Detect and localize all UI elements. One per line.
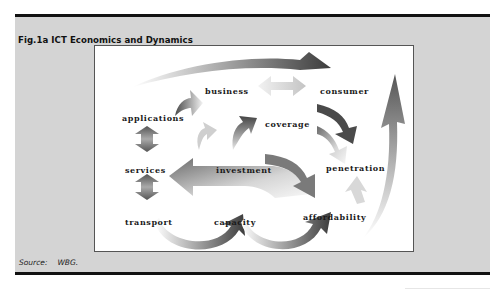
node-consumer: consumer — [320, 86, 369, 96]
node-services: services — [125, 165, 166, 175]
source-label: Source: — [19, 258, 47, 267]
services-transport-double-arrow — [135, 174, 159, 200]
top-swoosh-arrow — [133, 52, 331, 87]
affordability-penetration-arrow — [345, 176, 367, 204]
node-applications: applications — [122, 113, 184, 123]
node-capacity: capacity — [214, 217, 256, 227]
source-value: WBG. — [57, 258, 78, 267]
applications-services-double-arrow — [135, 126, 159, 152]
node-business: business — [205, 86, 249, 96]
node-penetration: penetration — [326, 163, 385, 173]
investment-coverage-arrow — [232, 116, 257, 150]
coverage-penetration-arrow — [317, 126, 347, 164]
consumer-penetration-arrow — [317, 104, 357, 144]
source-note: Source:WBG. — [19, 258, 78, 267]
figure-panel: Fig.1a ICT Economics and Dynamics — [15, 14, 490, 275]
diagram-canvas: business consumer applications coverage … — [94, 45, 414, 252]
node-affordability: affordability — [303, 212, 366, 222]
node-investment: investment — [216, 165, 272, 175]
node-transport: transport — [125, 217, 173, 227]
investment-business-arrow — [197, 122, 217, 150]
decorative-rule — [405, 288, 490, 289]
figure-title: Fig.1a ICT Economics and Dynamics — [18, 35, 193, 45]
right-rising-arrow — [363, 74, 405, 238]
business-consumer-double-arrow — [258, 76, 306, 96]
node-coverage: coverage — [265, 119, 310, 129]
